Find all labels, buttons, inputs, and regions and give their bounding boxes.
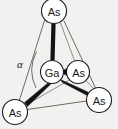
molecule-diagram-svg: As As As As Ga α xyxy=(0,0,118,129)
angle-label-alpha: α xyxy=(17,58,23,70)
angle-arc xyxy=(32,52,37,89)
atom-ga-center: Ga xyxy=(41,61,64,84)
atom-as-bottom-right: As xyxy=(87,88,112,113)
atom-label-ga-center: Ga xyxy=(45,67,60,79)
atom-as-top: As xyxy=(42,0,67,24)
atom-label-as-right-middle: As xyxy=(72,67,85,79)
atom-label-as-bottom-left: As xyxy=(9,107,22,119)
bond-ga-as-bottom-left xyxy=(25,81,55,107)
atom-label-as-top: As xyxy=(48,6,61,18)
cage-edge-bottomleft-bottomright xyxy=(28,101,87,110)
cage-edge-top-bottomleft xyxy=(20,21,45,101)
atom-label-as-bottom-right: As xyxy=(93,95,106,107)
atom-as-right-middle: As xyxy=(67,61,90,84)
bond-ga-as-top xyxy=(53,24,54,61)
atom-as-bottom-left: As xyxy=(3,100,28,125)
gaas-tetrahedron-figure: As As As As Ga α xyxy=(0,0,118,129)
